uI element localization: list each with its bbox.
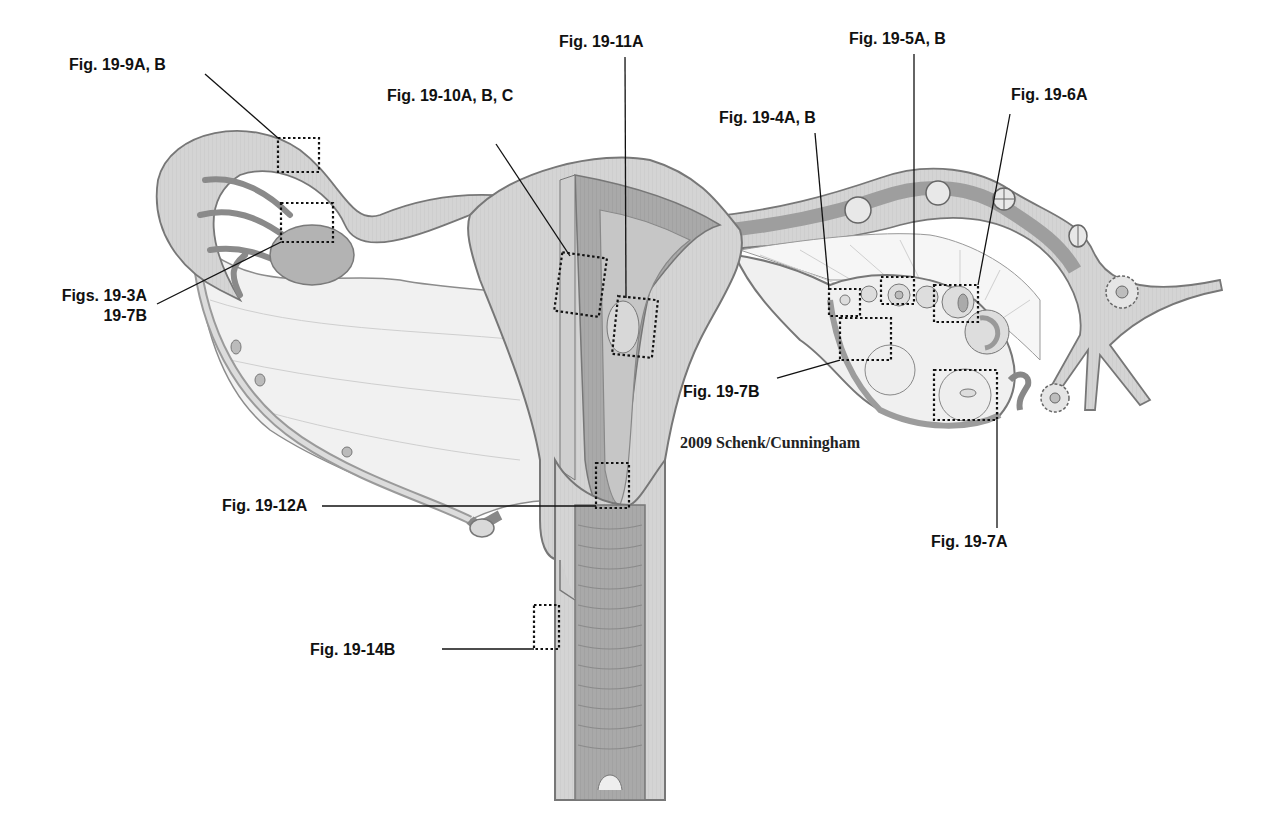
label-fig-19-7a: Fig. 19-7A — [931, 533, 1007, 551]
anatomy-illustration — [0, 0, 1266, 833]
label-fig-19-5: Fig. 19-5A, B — [849, 30, 946, 48]
label-fig-19-9: Fig. 19-9A, B — [69, 56, 166, 74]
label-fig-19-14: Fig. 19-14B — [310, 641, 395, 659]
label-fig-19-7b: Fig. 19-7B — [683, 383, 759, 401]
illustration-credit: 2009 Schenk/Cunningham — [680, 434, 860, 452]
vagina — [555, 460, 665, 800]
label-fig-19-10: Fig. 19-10A, B, C — [387, 87, 513, 105]
anatomy-diagram: Fig. 19-9A, B Figs. 19-3A 19-7B Fig. 19-… — [0, 0, 1266, 833]
label-fig-19-4: Fig. 19-4A, B — [719, 109, 816, 127]
label-fig-19-6: Fig. 19-6A — [1011, 86, 1087, 104]
label-figs-19-3a-line2: 19-7B — [32, 307, 147, 325]
label-fig-19-11: Fig. 19-11A — [559, 33, 643, 51]
label-figs-19-3a: Figs. 19-3A — [32, 287, 147, 305]
label-fig-19-12: Fig. 19-12A — [222, 497, 307, 515]
